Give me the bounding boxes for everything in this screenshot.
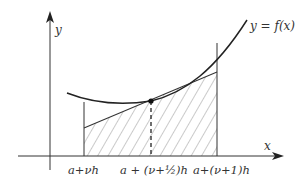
- diagram-canvas: y x y = f(x) a+νh a + (ν+½)h a+(ν+1)h: [0, 0, 298, 184]
- tick-label-right: a+(ν+1)h: [193, 163, 250, 177]
- tick-label-left: a+νh: [68, 163, 99, 177]
- curve-label: y = f(x): [249, 19, 295, 33]
- x-axis-label: x: [264, 139, 271, 153]
- tick-label-mid: a + (ν+½)h: [120, 163, 188, 177]
- y-axis-label: y: [54, 23, 62, 37]
- tangent-point: [148, 98, 153, 103]
- curve-f: [67, 20, 247, 103]
